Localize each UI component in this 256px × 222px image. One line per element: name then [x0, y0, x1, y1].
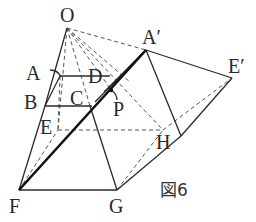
label-C: C: [70, 87, 83, 109]
label-D: D: [88, 65, 102, 87]
edge-O-A-prime: [67, 28, 146, 50]
solid-edges: [19, 28, 232, 190]
label-A: A: [26, 62, 41, 84]
label-E-prime: E′: [228, 55, 245, 77]
edge-A-prime-E-prime: [146, 50, 232, 78]
point-P: [109, 88, 113, 92]
edge-O-B: [45, 28, 67, 106]
label-G: G: [109, 195, 123, 217]
label-H: H: [156, 131, 170, 153]
edge-A-prime-corner: [146, 50, 181, 136]
dashed-edges: [19, 28, 232, 190]
label-F: F: [9, 195, 20, 217]
label-B: B: [24, 91, 37, 113]
edge-F-E: [19, 130, 58, 190]
label-P: P: [113, 98, 124, 120]
label-O: O: [60, 4, 74, 26]
edge-E-prime-corner: [181, 78, 232, 136]
vertex-labels: O A′ E′ A D B C E P H F G: [9, 4, 245, 217]
label-E: E: [40, 116, 52, 138]
label-A-prime: A′: [142, 26, 161, 48]
edge-H-E-prime: [163, 78, 232, 130]
geometry-diagram: O A′ E′ A D B C E P H F G 図6: [0, 0, 256, 222]
figure-caption: 図6: [160, 180, 188, 200]
